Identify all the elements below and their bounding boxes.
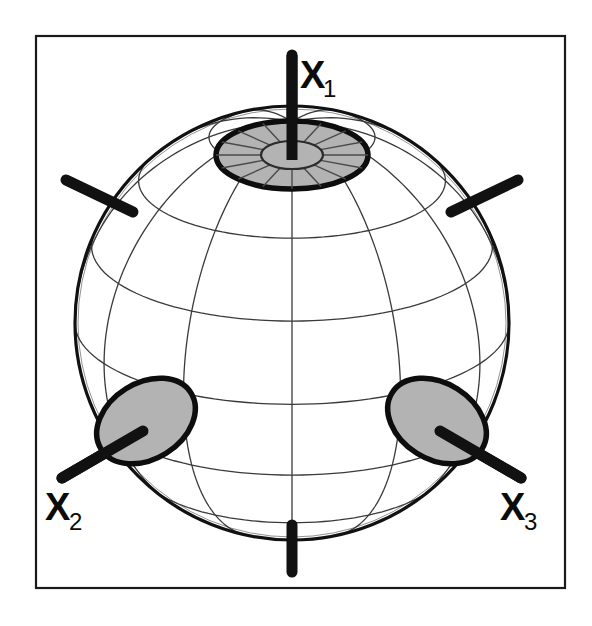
axis-label-x3: X <box>500 486 526 528</box>
axis-label-subscript-x3: 3 <box>524 508 537 535</box>
sphere-axes-figure: X1X2X3 <box>0 0 592 626</box>
axis-label-subscript-x1: 1 <box>323 75 336 102</box>
figure-root: X1X2X3 <box>0 0 592 626</box>
axis-label-subscript-x2: 2 <box>69 508 82 535</box>
axis-label-x2: X <box>45 486 71 528</box>
